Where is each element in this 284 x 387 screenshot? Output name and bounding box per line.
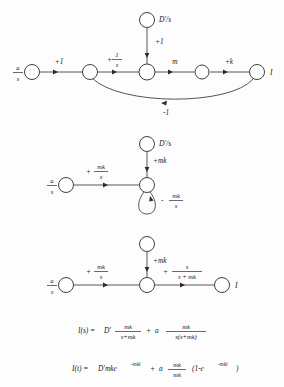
edge-label-3-2-d3: +mk	[153, 256, 167, 265]
edge-label-1-4-d1: m	[172, 57, 177, 66]
input-label-denominator-d1: s	[17, 75, 20, 82]
output-label-d3: I	[234, 281, 238, 290]
node-4-d1[interactable]	[195, 65, 209, 79]
figure-page: a s D'/s I +1 + 1 s +1 m +k -1	[0, 0, 284, 387]
input-label-denominator-d3: s	[51, 288, 54, 295]
equation-time-plus: +	[150, 364, 155, 373]
equation-laplace-term2-denominator: s(s+mk)	[175, 333, 197, 341]
input-label-denominator-d2: s	[51, 188, 54, 195]
node-input-d2[interactable]	[59, 178, 74, 193]
edge-label-3-1-numerator-d3: mk	[97, 263, 106, 270]
equation-laplace-plus: +	[146, 326, 151, 335]
input-label-numerator-d2: a	[50, 177, 54, 184]
edge-label-2-2-d2: +mk	[153, 156, 167, 165]
edge-label-1-2-denominator-d1: s	[116, 61, 119, 68]
source-label-d1: D'/s	[158, 15, 171, 24]
equation-laplace-term1-numerator: mk	[124, 323, 133, 330]
equation-laplace-term2-numerator: mk	[182, 323, 191, 330]
equation-time-term2-exponent: -mkt	[218, 361, 228, 367]
equation-time-term2-open: (1-e	[192, 364, 205, 373]
edge-1-3-arrowhead	[145, 53, 150, 58]
signal-flow-graph-figure: a s D'/s I +1 + 1 s +1 m +k -1	[0, 0, 284, 387]
edge-label-3-3-denominator-d3: s + mk	[178, 273, 197, 280]
equation-time-term2-coefficient: a	[159, 364, 163, 373]
node-center-d2[interactable]	[140, 178, 155, 193]
node-3-d1[interactable]	[139, 64, 155, 80]
equation-time-lhs: I(t) =	[71, 364, 88, 373]
equation-laplace-group: I(s) = D' mk s+mk + a mk s(s+mk)	[77, 323, 206, 341]
edge-label-2-1-sign-d2: +	[86, 167, 91, 176]
edge-label-3-1-denominator-d3: s	[100, 273, 103, 280]
equation-time-term2-numerator: mk	[173, 361, 182, 368]
edge-label-1-6-d1: -1	[163, 108, 169, 117]
equation-time-term2-close: )	[235, 364, 239, 373]
edge-label-2-1-denominator-d2: s	[100, 173, 103, 180]
node-output-d3[interactable]	[215, 278, 230, 293]
node-input-d1[interactable]	[25, 65, 40, 80]
edge-1-6-arrowhead	[161, 101, 167, 106]
edge-label-2-3-numerator-d2: mk	[172, 192, 181, 199]
edge-1-2-arrowhead	[112, 70, 117, 75]
equation-laplace-term2-coefficient: a	[155, 326, 159, 335]
edge-label-1-3-d1: +1	[155, 37, 164, 46]
edge-label-1-2-sign-d1: +	[107, 55, 112, 64]
output-label-d1: I	[269, 68, 273, 77]
node-output-d1[interactable]	[250, 65, 265, 80]
equation-time-group: I(t) = D'mke -mkt + a mk mk (1-e -mkt )	[71, 361, 239, 378]
equation-laplace-lhs: I(s) =	[77, 326, 95, 335]
edge-label-1-2-numerator-d1: 1	[115, 51, 118, 58]
node-center-d3[interactable]	[140, 278, 155, 293]
edge-label-1-5-d1: +k	[225, 57, 234, 66]
edge-3-1-arrowhead	[103, 283, 108, 288]
equation-laplace-term1-coefficient: D'	[103, 326, 111, 335]
edge-3-3-arrowhead	[180, 283, 185, 288]
edge-1-1-arrowhead	[53, 70, 58, 75]
edge-label-3-1-sign-d3: +	[86, 267, 91, 276]
edge-label-1-1-d1: +1	[55, 57, 64, 66]
input-label-numerator-d1: a	[16, 64, 20, 71]
edge-2-1-arrowhead	[103, 183, 108, 188]
edge-2-3-selfloop-path	[139, 192, 156, 214]
edge-1-4-arrowhead	[168, 70, 173, 75]
edge-1-6-feedback-path	[92, 78, 253, 99]
equation-laplace-term1-denominator: s+mk	[121, 333, 137, 340]
edge-label-2-3-sign-d2: -	[161, 196, 164, 205]
edge-3-2-arrowhead	[145, 267, 150, 272]
edge-label-3-3-sign-d3: +	[163, 267, 168, 276]
edge-label-3-3-numerator-d3: s	[186, 263, 189, 270]
equation-time-term1-exponent: -mkt	[131, 361, 141, 367]
node-input-d3[interactable]	[59, 278, 74, 293]
node-2-d1[interactable]	[83, 65, 98, 80]
source-label-d2: D'/s	[158, 139, 171, 148]
edge-2-2-arrowhead	[145, 167, 150, 172]
node-source-d1[interactable]	[140, 13, 155, 28]
equation-time-term1-coefficient: D'mke	[97, 364, 118, 373]
edge-label-2-3-denominator-d2: s	[175, 202, 178, 209]
input-label-numerator-d3: a	[50, 277, 54, 284]
diagram-2-group: a s D'/s + mk s +mk - mk s	[47, 137, 183, 215]
node-source-d2[interactable]	[140, 137, 155, 152]
diagram-3-group: a s I + mk s +mk + s s + mk	[47, 237, 238, 295]
edge-label-2-1-numerator-d2: mk	[97, 163, 106, 170]
equation-time-term2-denominator: mk	[173, 371, 182, 378]
diagram-1-group: a s D'/s I +1 + 1 s +1 m +k -1	[13, 13, 273, 118]
edge-1-5-arrowhead	[223, 70, 228, 75]
node-source-d3[interactable]	[140, 237, 155, 252]
